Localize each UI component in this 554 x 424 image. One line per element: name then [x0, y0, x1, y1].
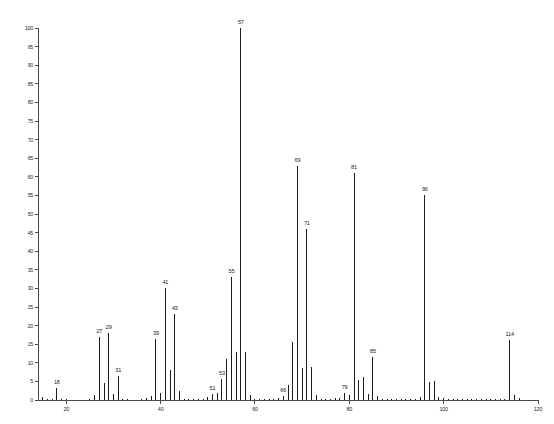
y-axis-tick-label: 35 — [28, 267, 34, 273]
peak-label: 18 — [54, 379, 60, 385]
peak-label: 69 — [295, 157, 301, 163]
peak-label: 114 — [506, 331, 514, 337]
y-axis-tick-label: 55 — [28, 192, 34, 198]
y-axis-tick-label: 75 — [28, 118, 34, 124]
y-axis-tick-label: 60 — [28, 174, 34, 180]
y-axis-tick-label: 90 — [28, 62, 34, 68]
peak-label: 79 — [342, 384, 348, 390]
peak-label: 53 — [219, 370, 225, 376]
y-axis-tick-label: 25 — [28, 304, 34, 310]
y-axis-tick-label: 45 — [28, 230, 34, 236]
peak-label: 31 — [115, 367, 121, 373]
y-axis-tick-label: 65 — [28, 155, 34, 161]
y-axis-tick-label: 100 — [25, 25, 33, 31]
x-axis-tick-label: 60 — [252, 406, 258, 412]
y-axis-tick-label: 0 — [30, 397, 33, 403]
y-axis-tick-label: 70 — [28, 137, 34, 143]
y-axis-tick-label: 5 — [30, 378, 33, 384]
y-axis-tick-label: 85 — [28, 81, 34, 87]
y-axis-tick-label: 10 — [28, 360, 34, 366]
y-axis-tick-label: 50 — [28, 211, 34, 217]
x-axis-tick-label: 40 — [158, 406, 164, 412]
peak-label: 81 — [351, 164, 357, 170]
x-axis-tick-label: 80 — [347, 406, 353, 412]
peak-label: 43 — [172, 305, 178, 311]
mass-spectrum-plot: 0510152025303540455055606570758085909510… — [0, 0, 554, 424]
x-axis-tick-label: 100 — [439, 406, 448, 412]
y-axis: 0510152025303540455055606570758085909510… — [25, 25, 38, 403]
peak-label: 55 — [228, 268, 234, 274]
y-axis-tick-label: 20 — [28, 323, 34, 329]
peak-label: 39 — [153, 330, 159, 336]
y-axis-tick-label: 30 — [28, 285, 34, 291]
peak-series — [43, 28, 519, 400]
spectrum-canvas: 0510152025303540455055606570758085909510… — [0, 0, 554, 424]
x-axis: 20406080100120 — [38, 400, 542, 412]
x-axis-tick-label: 20 — [63, 406, 69, 412]
y-axis-tick-label: 40 — [28, 248, 34, 254]
x-axis-tick-label: 120 — [534, 406, 543, 412]
peak-label: 57 — [238, 19, 244, 25]
peak-label: 51 — [210, 385, 216, 391]
y-axis-tick-label: 15 — [28, 341, 34, 347]
peak-label: 29 — [106, 324, 112, 330]
peak-label: 96 — [422, 186, 428, 192]
peak-label: 71 — [304, 220, 310, 226]
peak-label: 41 — [162, 279, 168, 285]
peak-label: 66 — [280, 387, 286, 393]
peak-label: 85 — [370, 348, 376, 354]
peak-label-series: 182729313941435153555766697179818596114 — [54, 19, 514, 393]
peak-label: 27 — [96, 328, 102, 334]
y-axis-tick-label: 95 — [28, 44, 34, 50]
y-axis-tick-label: 80 — [28, 99, 34, 105]
